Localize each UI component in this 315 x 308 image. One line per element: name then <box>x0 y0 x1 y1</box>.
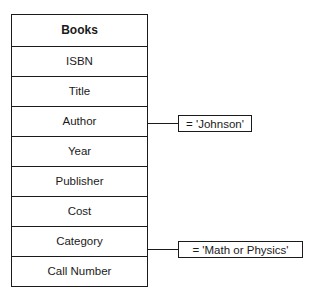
field-publisher: Publisher <box>12 166 147 196</box>
field-isbn: ISBN <box>12 46 147 76</box>
category-condition-box: = 'Math or Physics' <box>178 241 303 258</box>
author-condition-box: = 'Johnson' <box>178 115 252 132</box>
table-title: Books <box>12 15 147 46</box>
field-author: Author <box>12 106 147 136</box>
field-call-number: Call Number <box>12 256 147 286</box>
category-connector-line <box>148 249 179 250</box>
field-cost: Cost <box>12 196 147 226</box>
field-title: Title <box>12 76 147 106</box>
field-category: Category <box>12 226 147 256</box>
author-connector-line <box>148 123 179 124</box>
field-year: Year <box>12 136 147 166</box>
books-table: Books ISBN Title Author Year Publisher C… <box>11 14 148 287</box>
